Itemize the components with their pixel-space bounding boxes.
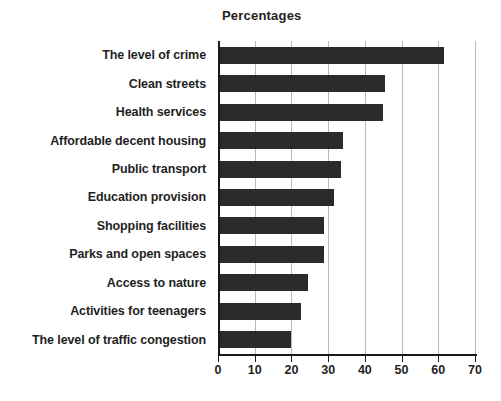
category-label: Public transport: [0, 155, 214, 183]
category-label: Health services: [0, 98, 214, 126]
category-axis: The level of crimeClean streetsHealth se…: [0, 41, 214, 354]
category-label: Activities for teenagers: [0, 297, 214, 325]
bar: [218, 246, 324, 263]
x-tick: [438, 356, 439, 362]
x-tick-label: 50: [395, 363, 409, 377]
category-label: The level of traffic congestion: [0, 326, 214, 354]
x-tick-label: 0: [215, 363, 222, 377]
x-tick-label: 20: [284, 363, 298, 377]
bar-row: [218, 240, 475, 268]
x-axis-ticks: [218, 356, 475, 362]
bar-row: [218, 155, 475, 183]
bar: [218, 217, 324, 234]
bar-row: [218, 69, 475, 97]
gridline: [475, 41, 476, 354]
category-label: Education provision: [0, 183, 214, 211]
category-label: Affordable decent housing: [0, 126, 214, 154]
chart-title: Percentages: [222, 8, 302, 23]
bar: [218, 161, 341, 178]
bar-row: [218, 212, 475, 240]
x-tick: [255, 356, 256, 362]
x-tick: [328, 356, 329, 362]
category-label: Clean streets: [0, 69, 214, 97]
category-label: The level of crime: [0, 41, 214, 69]
category-label: Access to nature: [0, 269, 214, 297]
bar-row: [218, 326, 475, 354]
bar-row: [218, 41, 475, 69]
x-tick: [402, 356, 403, 362]
bar: [218, 303, 301, 320]
bar-row: [218, 297, 475, 325]
x-tick-label: 60: [431, 363, 445, 377]
bar: [218, 75, 385, 92]
y-axis-line: [218, 41, 220, 354]
x-tick-label: 40: [358, 363, 372, 377]
bar: [218, 104, 383, 121]
category-label: Parks and open spaces: [0, 240, 214, 268]
bar-row: [218, 269, 475, 297]
bar-chart: Percentages The level of crimeClean stre…: [0, 0, 501, 401]
x-tick: [365, 356, 366, 362]
bar-row: [218, 183, 475, 211]
x-tick-label: 70: [468, 363, 482, 377]
category-label: Shopping facilities: [0, 212, 214, 240]
bar: [218, 274, 308, 291]
x-tick: [291, 356, 292, 362]
x-tick-label: 30: [321, 363, 335, 377]
plot-area: [218, 41, 475, 354]
bar: [218, 132, 343, 149]
bar: [218, 331, 291, 348]
bar-row: [218, 126, 475, 154]
x-tick: [218, 356, 219, 362]
x-tick: [475, 356, 476, 362]
bar-series: [218, 41, 475, 354]
x-tick-label: 10: [248, 363, 262, 377]
bar: [218, 47, 444, 64]
bar: [218, 189, 334, 206]
bar-row: [218, 98, 475, 126]
x-axis-tick-labels: 010203040506070: [218, 363, 475, 383]
